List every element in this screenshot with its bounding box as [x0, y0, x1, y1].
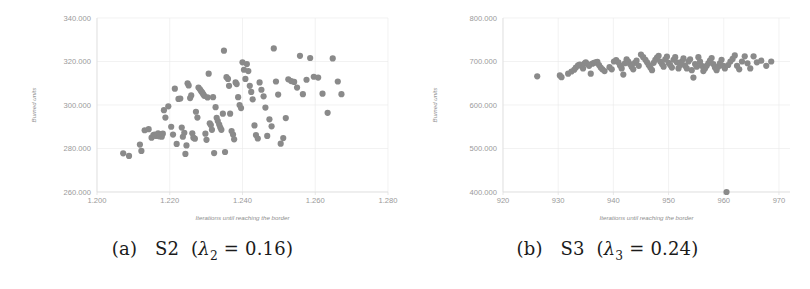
data-point — [723, 189, 729, 195]
y-tick-label: 600.000 — [470, 101, 497, 110]
data-point — [278, 141, 284, 147]
data-point — [248, 89, 254, 95]
data-point — [225, 76, 231, 82]
x-tick-label: 1.280 — [378, 196, 397, 205]
scatter-chart-a: 1.2001.2201.2401.2601.280260.000280.0003… — [0, 0, 405, 235]
caption-a-label: (a) — [112, 238, 137, 259]
x-axis-title: Iterations until reaching the border — [196, 214, 291, 221]
x-tick-label: 920 — [497, 196, 510, 205]
data-point — [226, 83, 232, 89]
caption-b-value: = 0.24 — [629, 238, 691, 259]
data-point — [636, 63, 642, 69]
data-point — [183, 142, 189, 148]
data-point — [244, 61, 250, 67]
data-point — [280, 135, 286, 141]
y-axis-title: Burned units — [30, 88, 37, 123]
data-point — [273, 78, 279, 84]
y-tick-label: 260.000 — [64, 188, 91, 197]
data-point — [687, 56, 693, 62]
data-point — [231, 136, 237, 142]
scatter-plot-a-svg: 1.2001.2201.2401.2601.280260.000280.0003… — [0, 0, 405, 235]
y-tick-label: 700.000 — [470, 57, 497, 66]
data-point — [609, 66, 615, 72]
data-point — [283, 115, 289, 121]
y-tick-label: 320.000 — [64, 57, 91, 66]
x-tick-label: 1.260 — [306, 196, 325, 205]
data-point — [739, 58, 745, 64]
data-point — [177, 95, 183, 101]
data-point — [620, 71, 626, 77]
data-point — [262, 105, 268, 111]
data-point — [588, 71, 594, 77]
data-point — [736, 66, 742, 72]
data-point — [211, 150, 217, 156]
data-point — [192, 136, 198, 142]
data-point — [235, 94, 241, 100]
data-point — [338, 91, 344, 97]
x-tick-label: 940 — [607, 196, 620, 205]
y-tick-label: 800.000 — [470, 14, 497, 23]
data-point — [242, 76, 248, 82]
y-tick-label: 280.000 — [64, 144, 91, 153]
data-point — [758, 58, 764, 64]
data-point — [732, 52, 738, 58]
data-point — [193, 109, 199, 115]
data-point — [206, 71, 212, 77]
data-point — [255, 135, 261, 141]
data-point — [182, 151, 188, 157]
data-point — [261, 93, 267, 99]
data-point — [303, 77, 309, 83]
data-point — [203, 137, 209, 143]
scatter-chart-b: 920930940950960970400.000500.000600.0007… — [405, 0, 810, 235]
data-point — [204, 94, 210, 100]
caption-b: (b) S3 (λ3 = 0.24) — [405, 238, 810, 263]
data-point — [271, 45, 277, 51]
data-point — [601, 68, 607, 74]
caption-b-lambda: λ — [604, 238, 616, 259]
data-point — [160, 131, 166, 137]
data-point — [534, 73, 540, 79]
data-point — [234, 81, 240, 87]
subfigure-a: 1.2001.2201.2401.2601.280260.000280.0003… — [0, 0, 405, 289]
data-point — [335, 78, 341, 84]
data-point — [266, 116, 272, 122]
data-point — [172, 86, 178, 92]
data-point — [170, 131, 176, 137]
y-axis-title: Burned units — [431, 88, 438, 123]
data-point — [250, 96, 256, 102]
data-point — [330, 55, 336, 61]
data-point — [664, 54, 670, 60]
data-point — [300, 91, 306, 97]
data-point — [174, 141, 180, 147]
data-point — [120, 150, 126, 156]
data-point — [181, 130, 187, 136]
data-point — [210, 94, 216, 100]
x-tick-label: 930 — [552, 196, 565, 205]
data-point — [227, 111, 233, 117]
data-point — [315, 74, 321, 80]
x-tick-label: 970 — [773, 196, 786, 205]
figure-row: 1.2001.2201.2401.2601.280260.000280.0003… — [0, 0, 810, 289]
y-tick-label: 500.000 — [470, 144, 497, 153]
data-point — [126, 153, 132, 159]
y-tick-label: 300.000 — [64, 101, 91, 110]
data-point — [264, 133, 270, 139]
caption-a-lambda-sub: 2 — [210, 249, 218, 263]
x-tick-label: 960 — [717, 196, 730, 205]
data-point — [744, 60, 750, 66]
data-point — [297, 53, 303, 59]
x-tick-label: 1.240 — [233, 196, 252, 205]
data-point — [209, 127, 215, 133]
caption-b-scenario: S3 — [560, 238, 584, 259]
data-point — [649, 67, 655, 73]
data-point — [220, 111, 226, 117]
caption-a: (a) S2 (λ2 = 0.16) — [0, 238, 405, 263]
x-tick-label: 1.220 — [160, 196, 179, 205]
data-point — [238, 105, 244, 111]
data-point — [690, 74, 696, 80]
data-point — [656, 53, 662, 59]
data-point — [661, 64, 667, 70]
data-point — [269, 123, 275, 129]
data-point — [742, 53, 748, 59]
x-axis-title: Iterations until reaching the border — [600, 214, 695, 221]
